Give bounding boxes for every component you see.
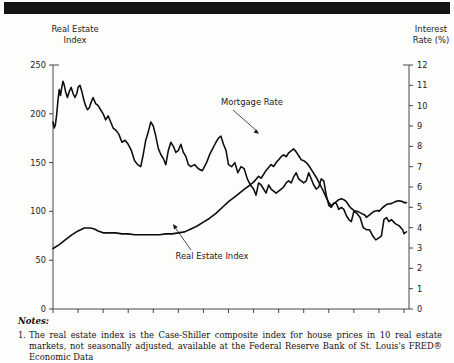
y-tick-label: 0 — [41, 304, 46, 314]
y-tick-label: 250 — [30, 60, 46, 70]
y2-tick-label: 10 — [417, 101, 427, 111]
figure-chart-area: Real EstateIndexInterestRate (%)05010015… — [0, 14, 454, 314]
y2-tick-label: 9 — [417, 121, 422, 131]
y2-tick-label: 3 — [417, 243, 422, 253]
leader-line-mortgage — [233, 110, 258, 132]
y2-tick-label: 6 — [417, 182, 422, 192]
note-text: The real estate index is the Case-Shille… — [29, 330, 442, 363]
arrowhead-index — [173, 224, 178, 230]
y2-tick-label: 2 — [417, 263, 422, 273]
y-tick-label: 50 — [36, 255, 46, 265]
y2-tick-label: 12 — [417, 60, 427, 70]
y2-tick-label: 0 — [417, 304, 422, 314]
y2-tick-label: 4 — [417, 223, 422, 233]
y2-tick-label: 11 — [417, 80, 427, 90]
y-tick-label: 150 — [30, 158, 46, 168]
series-real-estate-index — [53, 149, 406, 249]
notes-heading: Notes: — [18, 316, 454, 326]
arrowhead-mortgage — [254, 129, 259, 134]
y2-tick-label: 5 — [417, 202, 422, 212]
y2-tick-label: 1 — [417, 284, 422, 294]
page-top-rule — [4, 2, 450, 14]
note-number: 1. — [18, 330, 26, 363]
notes-section: Notes: 1. The real estate index is the C… — [0, 316, 454, 363]
real-estate-interest-rate-chart: Real EstateIndexInterestRate (%)05010015… — [0, 14, 454, 314]
axis-title: Index — [63, 35, 86, 45]
note-item: 1. The real estate index is the Case-Shi… — [18, 330, 442, 363]
axis-title: Real Estate — [51, 24, 98, 34]
annotation-real-estate-index: Real Estate Index — [176, 251, 249, 261]
axis-title: Rate (%) — [413, 35, 449, 45]
y-tick-label: 200 — [30, 109, 46, 119]
y2-tick-label: 8 — [417, 141, 422, 151]
axis-title: Interest — [415, 24, 448, 34]
y-tick-label: 100 — [30, 206, 46, 216]
y2-tick-label: 7 — [417, 162, 422, 172]
annotation-mortgage-rate: Mortgage Rate — [221, 97, 283, 107]
